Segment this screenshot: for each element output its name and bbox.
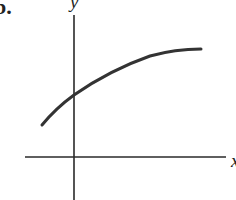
part-label: b. bbox=[0, 0, 12, 20]
y-axis-label: y bbox=[70, 0, 78, 13]
x-axis-label: x bbox=[231, 150, 236, 172]
graph-canvas bbox=[0, 0, 236, 200]
graph-figure: b. y x bbox=[0, 0, 236, 200]
function-curve bbox=[42, 49, 201, 125]
